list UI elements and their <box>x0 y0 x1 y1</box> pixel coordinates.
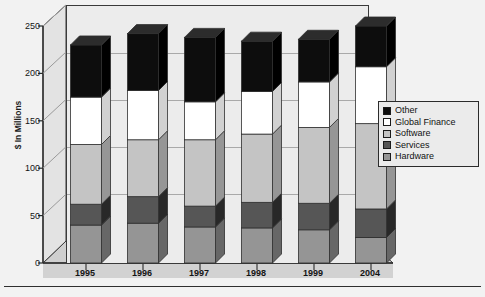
y-tick-label: 250 <box>10 21 40 31</box>
bar-segment-global-finance-1998[interactable] <box>242 91 273 134</box>
y-tick-label: 0 <box>10 258 40 268</box>
bar-segment-hardware-2004[interactable] <box>356 237 387 263</box>
bar-segment-side-other <box>102 36 111 97</box>
legend-swatch-global-finance <box>383 118 391 126</box>
x-tick-label-1997: 1997 <box>174 268 224 278</box>
bar-segment-services-1998[interactable] <box>242 202 273 228</box>
bar-segment-side-other <box>159 25 168 91</box>
bar-segment-hardware-1995[interactable] <box>71 225 102 263</box>
stacked-bar-chart: 0 50 100 150 200 250 $ In Millions 1995 … <box>0 0 485 297</box>
y-tick-label: 50 <box>10 211 40 221</box>
bar-segment-global-finance-1997[interactable] <box>185 102 216 140</box>
y-tick-label: 200 <box>10 68 40 78</box>
bar-group-1995[interactable] <box>71 36 111 263</box>
legend-swatch-software <box>383 130 391 138</box>
legend-item-services[interactable]: Services <box>383 140 474 152</box>
legend-label-hardware: Hardware <box>395 151 434 163</box>
bar-segment-services-1999[interactable] <box>299 203 330 230</box>
bar-segment-services-1997[interactable] <box>185 206 216 227</box>
legend-swatch-services <box>383 141 391 149</box>
bar-segment-other-1999[interactable] <box>299 39 330 82</box>
bar-segment-hardware-1998[interactable] <box>242 228 273 263</box>
bar-segment-services-1995[interactable] <box>71 204 102 225</box>
bar-segment-services-2004[interactable] <box>356 209 387 237</box>
bar-segment-side-global-finance <box>159 81 168 139</box>
y-axis-title: $ In Millions <box>13 90 23 160</box>
bar-segment-side-software <box>216 131 225 206</box>
bar-group-1998[interactable] <box>242 32 282 263</box>
bar-segment-software-1995[interactable] <box>71 145 102 205</box>
bar-segment-other-1995[interactable] <box>71 45 102 97</box>
bar-segment-hardware-1999[interactable] <box>299 230 330 263</box>
legend-item-software[interactable]: Software <box>383 128 474 140</box>
legend-label-global-finance: Global Finance <box>395 117 456 129</box>
y-tick-label: 100 <box>10 163 40 173</box>
x-tick-label-1996: 1996 <box>117 268 167 278</box>
bar-segment-software-1998[interactable] <box>242 134 273 202</box>
bar-segment-other-2004[interactable] <box>356 26 387 67</box>
legend-item-global-finance[interactable]: Global Finance <box>383 117 474 129</box>
bar-segment-global-finance-1999[interactable] <box>299 82 330 128</box>
bar-segment-side-other <box>273 32 282 91</box>
bar-segment-other-1997[interactable] <box>185 37 216 101</box>
bar-segment-global-finance-1995[interactable] <box>71 97 102 144</box>
bar-segment-software-1997[interactable] <box>185 140 216 206</box>
bar-segment-side-global-finance <box>102 88 111 144</box>
x-axis-labels: 1995 1996 1997 1998 1999 2004 <box>0 268 485 284</box>
bar-segment-other-1996[interactable] <box>128 34 159 91</box>
x-tick-label-1999: 1999 <box>288 268 338 278</box>
x-tick-label-1998: 1998 <box>231 268 281 278</box>
x-tick-label-2004: 2004 <box>345 268 395 278</box>
legend-label-other: Other <box>395 105 418 117</box>
bottom-rule <box>4 286 481 287</box>
chart-legend: Other Global Finance Software Services H… <box>378 101 479 167</box>
bar-segment-global-finance-1996[interactable] <box>128 90 159 139</box>
bar-segment-software-1999[interactable] <box>299 127 330 203</box>
bar-segment-side-software <box>102 136 111 205</box>
bar-group-1997[interactable] <box>185 28 225 263</box>
legend-swatch-other <box>383 107 391 115</box>
bar-segment-hardware-1997[interactable] <box>185 227 216 263</box>
x-tick-label-1995: 1995 <box>60 268 110 278</box>
bar-segment-side-software <box>273 125 282 202</box>
bar-segment-hardware-1996[interactable] <box>128 223 159 263</box>
bar-segment-side-software <box>330 118 339 203</box>
legend-label-services: Services <box>395 140 430 152</box>
legend-label-software: Software <box>395 128 431 140</box>
legend-swatch-hardware <box>383 153 391 161</box>
bar-group-1996[interactable] <box>128 25 168 263</box>
bar-segment-other-1998[interactable] <box>242 41 273 91</box>
bar-segment-services-1996[interactable] <box>128 197 159 224</box>
bar-segment-software-1996[interactable] <box>128 140 159 197</box>
legend-item-other[interactable]: Other <box>383 105 474 117</box>
bar-segment-side-other <box>216 28 225 101</box>
bar-group-1999[interactable] <box>299 30 339 263</box>
legend-item-hardware[interactable]: Hardware <box>383 151 474 163</box>
bar-segment-side-software <box>159 131 168 197</box>
